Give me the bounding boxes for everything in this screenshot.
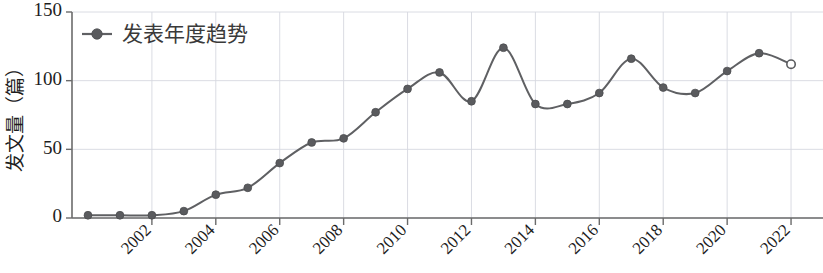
- data-point-marker: [372, 108, 380, 116]
- data-point-marker: [500, 44, 508, 52]
- data-point-marker: [468, 97, 476, 105]
- data-point-marker: [116, 211, 124, 219]
- data-point-marker: [148, 211, 156, 219]
- x-tick-label: 2002: [117, 220, 154, 257]
- legend-marker: [92, 29, 102, 39]
- data-point-marker: [659, 84, 667, 92]
- data-point-marker: [595, 89, 603, 97]
- y-tick-label: 50: [43, 137, 62, 158]
- x-tick-label: 2020: [692, 220, 729, 257]
- x-tick-label: 2006: [245, 220, 282, 257]
- data-point-marker: [84, 211, 92, 219]
- publication-trend-chart: 0501001502002200420062008201020122014201…: [0, 0, 823, 273]
- series-group: [84, 44, 795, 219]
- data-point-marker: [563, 100, 571, 108]
- data-point-marker: [276, 159, 284, 167]
- y-tick-label: 150: [34, 0, 63, 20]
- legend-label: 发表年度趋势: [122, 22, 248, 45]
- y-tick-label: 0: [53, 205, 63, 226]
- y-tick-label: 100: [34, 68, 63, 89]
- data-point-marker: [244, 184, 252, 192]
- data-point-marker: [627, 55, 635, 63]
- data-point-marker: [436, 69, 444, 77]
- x-tick-label: 2016: [565, 220, 602, 257]
- x-tick-label: 2010: [373, 220, 410, 257]
- y-axis-title: 发文量（篇）: [5, 58, 26, 172]
- data-point-marker: [691, 89, 699, 97]
- x-tick-label: 2018: [629, 220, 666, 257]
- data-point-marker: [308, 139, 316, 147]
- x-tick-label: 2012: [437, 220, 474, 257]
- x-tick-label: 2004: [181, 220, 219, 258]
- data-point-marker: [340, 134, 348, 142]
- x-tick-label: 2022: [756, 220, 793, 257]
- legend-group: 发表年度趋势: [82, 22, 248, 45]
- x-tick-label: 2008: [309, 220, 346, 257]
- data-point-marker: [723, 67, 731, 75]
- data-point-marker: [212, 191, 220, 199]
- data-point-marker-open: [787, 60, 795, 68]
- data-point-marker: [180, 207, 188, 215]
- x-tick-label: 2014: [501, 220, 539, 258]
- data-point-marker: [404, 85, 412, 93]
- chart-canvas: 0501001502002200420062008201020122014201…: [0, 0, 823, 273]
- data-point-marker: [755, 49, 763, 57]
- data-point-marker: [531, 100, 539, 108]
